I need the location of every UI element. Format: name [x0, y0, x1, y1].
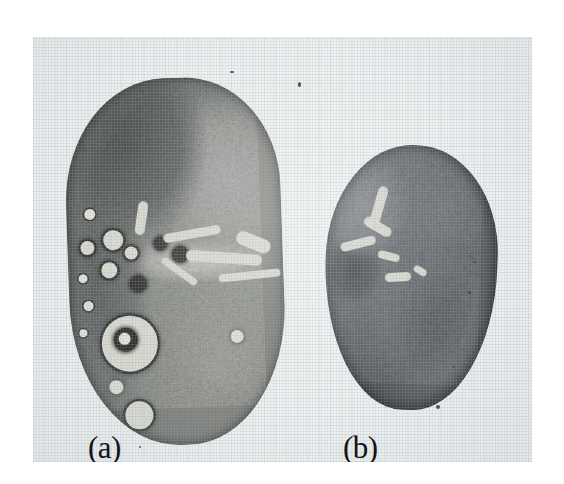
follicle-4 — [78, 274, 87, 283]
specimen-b-ovary-section — [320, 142, 501, 413]
tissue-grain-a-coarse — [62, 74, 267, 412]
dust-speck-2 — [230, 71, 234, 73]
connective-streak-1 — [368, 185, 390, 230]
follicle-17 — [230, 330, 243, 343]
panel-label-b: (b) — [343, 432, 378, 462]
hilum-streak-4 — [218, 268, 280, 282]
dust-speck-3 — [436, 405, 440, 409]
connective-streak-2 — [362, 215, 393, 239]
figure-root: (a) (b) — [0, 0, 564, 484]
hilum-streak-2 — [186, 250, 263, 266]
dust-speck-7 — [139, 446, 141, 448]
hilum-streak-3 — [160, 256, 198, 286]
connective-streak-6 — [412, 264, 428, 277]
follicle-12 — [118, 333, 130, 345]
follicle-11 — [113, 327, 138, 352]
follicle-6 — [124, 246, 137, 259]
follicle-5 — [101, 262, 118, 279]
dust-speck-1 — [298, 82, 301, 87]
tissue-grain-b-coarse — [320, 142, 485, 386]
connective-streak-layer-b — [330, 142, 502, 148]
follicle-7 — [129, 275, 147, 293]
connective-streak-5 — [385, 272, 412, 283]
tissue-grain-b — [320, 142, 485, 386]
hilum-streak-1 — [163, 224, 222, 243]
follicle-layer-a — [62, 74, 277, 82]
hilum-streak-5 — [234, 229, 273, 255]
hilum-streak-6 — [134, 201, 149, 236]
follicle-15 — [109, 380, 123, 394]
connective-streak-4 — [377, 250, 400, 263]
follicle-16 — [125, 401, 154, 430]
hilum-streak-layer-a — [62, 74, 277, 82]
specimen-a-ovary-section — [62, 74, 290, 448]
follicle-8 — [83, 301, 93, 311]
follicle-3 — [103, 230, 124, 251]
photographic-plate: (a) (b) — [33, 37, 532, 462]
tissue-grain-a — [62, 74, 267, 412]
panel-label-a: (a) — [88, 432, 121, 462]
follicle-13 — [153, 236, 167, 250]
follicle-14 — [171, 246, 189, 264]
follicle-10 — [101, 315, 159, 373]
follicle-1 — [84, 209, 95, 220]
connective-streak-3 — [340, 235, 377, 252]
follicle-9 — [79, 329, 87, 337]
follicle-2 — [80, 241, 94, 255]
